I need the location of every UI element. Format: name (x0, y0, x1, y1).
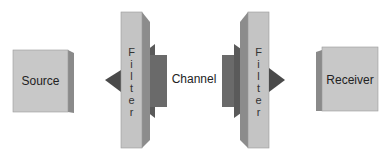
right-filter-letter-3: t (257, 82, 260, 94)
right-filter: F i l t e r (240, 12, 269, 148)
receiver-box-side (316, 50, 322, 111)
receiver-label: Receiver (326, 73, 373, 87)
right-filter-letter-5: r (257, 106, 261, 118)
channel-label: Channel (172, 72, 217, 86)
left-filter-letter-0: F (128, 46, 135, 58)
right-arrow-icon (269, 68, 285, 92)
right-filter-letter-1: i (257, 58, 259, 70)
left-filter-letter-1: i (130, 58, 132, 70)
source-box: Source (13, 50, 74, 113)
right-filter-letter-2: l (257, 70, 259, 82)
left-arrow-icon (105, 70, 121, 92)
source-box-side (68, 50, 74, 113)
left-filter-letter-2: l (130, 70, 132, 82)
left-filter: F i l t e r (121, 12, 150, 148)
left-filter-letter-4: e (128, 94, 134, 106)
right-filter-side (240, 12, 248, 148)
source-label: Source (21, 74, 59, 88)
right-filter-letter-4: e (255, 94, 261, 106)
communication-diagram: Source F i l t e r Channel F i l t e r (0, 0, 388, 157)
right-filter-letter-0: F (255, 46, 262, 58)
left-filter-letter-3: t (130, 82, 133, 94)
receiver-box: Receiver (316, 47, 378, 111)
left-filter-letter-5: r (130, 106, 134, 118)
left-filter-side (142, 12, 150, 148)
